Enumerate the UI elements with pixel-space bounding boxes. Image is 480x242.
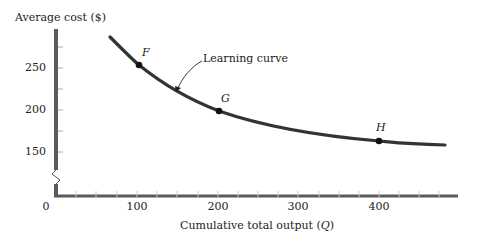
point-f-label: F	[142, 46, 150, 59]
y-tick-250: 250	[16, 61, 46, 74]
y-axis-title: Average cost ($)	[15, 11, 106, 24]
x-axis-title-prefix: Cumulative total output (	[180, 219, 321, 232]
x-axis	[54, 191, 458, 197]
point-h-label: H	[376, 121, 386, 134]
point-f-marker	[136, 62, 143, 69]
y-tick-150: 150	[16, 145, 46, 158]
x-axis-title-suffix: )	[330, 219, 334, 232]
point-h-marker	[376, 138, 383, 145]
point-g-marker	[216, 108, 223, 115]
x-tick-400: 400	[359, 200, 399, 213]
annotation-arrow-icon	[175, 61, 202, 92]
x-tick-200: 200	[198, 200, 238, 213]
x-axis-title: Cumulative total output (Q)	[180, 219, 334, 232]
x-tick-300: 300	[278, 200, 318, 213]
curve-annotation: Learning curve	[203, 52, 288, 65]
y-tick-200: 200	[16, 103, 46, 116]
x-axis-title-var: Q	[321, 219, 330, 232]
x-tick-100: 100	[117, 200, 157, 213]
point-g-label: G	[221, 92, 230, 105]
x-tick-0: 0	[26, 200, 66, 213]
y-axis	[52, 29, 63, 197]
chart-canvas	[0, 0, 480, 242]
learning-curve-chart: Average cost ($) Cumulative total output…	[0, 0, 480, 242]
